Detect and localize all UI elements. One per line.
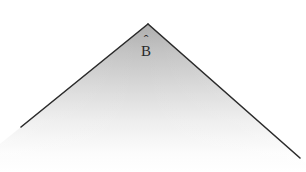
apex-label-stack: ˆ B [141, 44, 151, 59]
circumflex-accent-icon: ˆ [144, 34, 149, 48]
apex-label: ˆ B [141, 44, 151, 59]
cone-shading-highlight [0, 24, 306, 172]
figure-canvas: ˆ B [0, 0, 306, 172]
cone-apex-figure [0, 0, 306, 172]
